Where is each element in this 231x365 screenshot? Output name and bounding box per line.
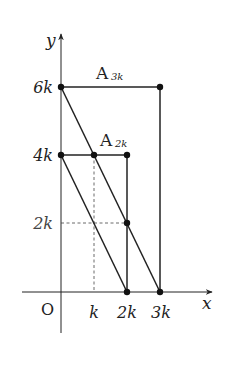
y-tick-2k: 2k	[32, 214, 53, 233]
point-0-6k	[58, 84, 64, 90]
label-a3k-sub: 3k	[111, 71, 123, 82]
segment-diagonal-6k-3k	[61, 87, 160, 292]
coordinate-diagram: y x O 6k 4k 2k k 2k 3k A 3k A 2k	[0, 0, 231, 365]
point-2k-2k	[124, 220, 130, 226]
label-a2k-sub: 2k	[114, 138, 127, 149]
point-3k-6k	[157, 84, 163, 90]
point-3k-0	[157, 289, 163, 295]
point-0-4k	[58, 152, 64, 158]
x-tick-2k: 2k	[116, 303, 137, 322]
origin-label: O	[41, 300, 54, 319]
x-axis-label: x	[202, 293, 212, 313]
point-2k-4k	[124, 152, 130, 158]
point-2k-0	[124, 289, 130, 295]
label-a2k-main: A	[99, 130, 113, 150]
label-a3k: A 3k	[95, 63, 123, 83]
x-tick-3k: 3k	[151, 303, 171, 322]
y-axis-label: y	[45, 30, 56, 50]
x-tick-k: k	[89, 303, 99, 322]
label-a2k: A 2k	[99, 130, 127, 150]
point-k-4k	[91, 152, 97, 158]
label-a3k-main: A	[95, 63, 109, 83]
y-tick-6k: 6k	[33, 78, 53, 97]
y-tick-4k: 4k	[32, 146, 53, 165]
